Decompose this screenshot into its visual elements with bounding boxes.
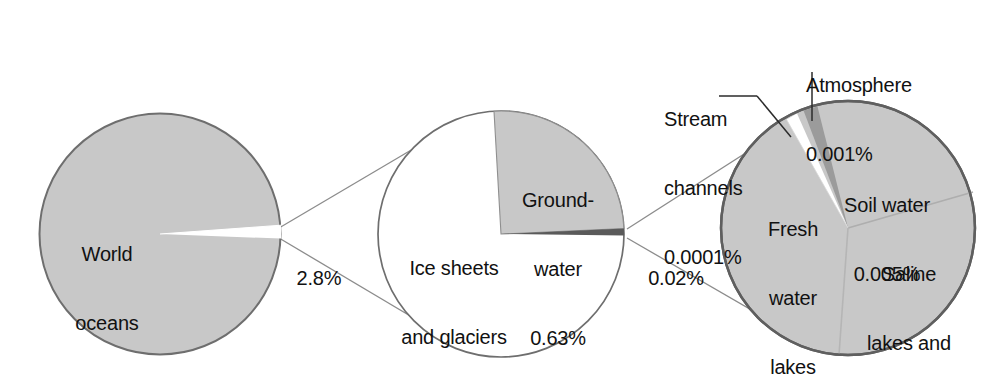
figure-canvas: World oceans 97.2% 2.8% Ice sheets and g…: [0, 0, 1000, 381]
label-fresh-water-lakes: Fresh water lakes 0.009%: [741, 172, 845, 381]
label-link-2-8-value: 2.8%: [289, 267, 349, 290]
label-stream-channels-line1: Stream: [664, 108, 784, 131]
label-saline-lakes-line1: Saline: [836, 263, 982, 286]
label-saline-lakes-line2: lakes and: [836, 332, 982, 355]
label-groundwater: Ground- water 0.63%: [503, 143, 613, 381]
label-groundwater-line3: 0.63%: [503, 327, 613, 350]
label-world-oceans-line2: oceans: [47, 312, 167, 335]
label-fresh-water-lakes-line2: water: [741, 287, 845, 310]
label-world-oceans: World oceans 97.2%: [47, 197, 167, 381]
label-world-oceans-line1: World: [47, 243, 167, 266]
label-fresh-water-lakes-line3: lakes: [741, 356, 845, 379]
label-groundwater-line2: water: [503, 258, 613, 281]
label-fresh-water-lakes-line1: Fresh: [741, 218, 845, 241]
label-atmosphere-line1: Atmosphere: [806, 74, 956, 97]
label-saline-lakes: Saline lakes and inland seas 0.008%: [836, 217, 982, 381]
label-groundwater-line1: Ground-: [503, 189, 613, 212]
label-link-2-8-percent: 2.8%: [289, 221, 349, 336]
